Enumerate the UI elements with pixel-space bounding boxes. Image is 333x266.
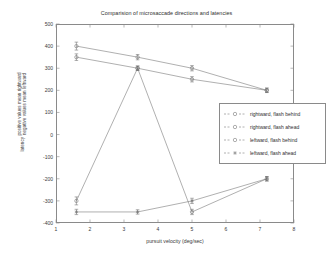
chart-title: Comparision of microsaccade directions a… bbox=[0, 10, 333, 16]
x-tick-label: 4 bbox=[152, 226, 164, 232]
y-tick-label: 400 bbox=[31, 43, 53, 49]
x-tick-label: 5 bbox=[186, 226, 198, 232]
y-tick-label: 300 bbox=[31, 65, 53, 71]
legend-label: rightward, flash behind bbox=[250, 111, 300, 117]
legend-label: leftward, flash ahead bbox=[250, 150, 296, 156]
legend-label: leftward, flash behind bbox=[250, 137, 297, 143]
legend-item[interactable]: rightward, flash behind bbox=[223, 108, 323, 120]
y-axis-label-latency: latency bbox=[20, 137, 25, 152]
x-tick-label: 6 bbox=[220, 226, 232, 232]
y-tick-label: 200 bbox=[31, 87, 53, 93]
legend-label: rightward, flash ahead bbox=[250, 124, 299, 130]
x-axis-label: pursuit velocity (deg/sec) bbox=[56, 238, 294, 244]
legend: rightward, flash behind rightward, flash… bbox=[219, 103, 326, 164]
x-tick-label: 8 bbox=[288, 226, 300, 232]
series-rightward-flash-ahead bbox=[75, 54, 269, 93]
series-rightward-flash-behind bbox=[75, 42, 269, 92]
y-axis-label: latency positive values mean rightward n… bbox=[14, 57, 30, 167]
legend-marker-rightward-flash-ahead bbox=[223, 122, 247, 132]
x-tick-label: 1 bbox=[50, 226, 62, 232]
y-axis-label-negative: negative values mean leftward bbox=[22, 73, 27, 135]
legend-item[interactable]: leftward, flash behind bbox=[223, 134, 323, 146]
legend-item[interactable]: leftward, flash ahead bbox=[223, 147, 323, 159]
legend-marker-leftward-flash-behind bbox=[223, 135, 247, 145]
y-tick-label: 500 bbox=[31, 21, 53, 27]
y-tick-label: -200 bbox=[31, 176, 53, 182]
x-tick-label: 3 bbox=[118, 226, 130, 232]
legend-marker-leftward-flash-ahead bbox=[223, 148, 247, 158]
y-tick-label: 100 bbox=[31, 109, 53, 115]
series-leftward-flash-ahead bbox=[75, 177, 269, 215]
y-tick-label: -300 bbox=[31, 198, 53, 204]
x-tick-label: 7 bbox=[254, 226, 266, 232]
y-tick-label: 0 bbox=[31, 132, 53, 138]
legend-marker-rightward-flash-behind bbox=[223, 109, 247, 119]
figure-canvas: Comparision of microsaccade directions a… bbox=[0, 0, 333, 266]
x-tick-label: 2 bbox=[84, 226, 96, 232]
legend-item[interactable]: rightward, flash ahead bbox=[223, 121, 323, 133]
y-tick-label: -100 bbox=[31, 154, 53, 160]
